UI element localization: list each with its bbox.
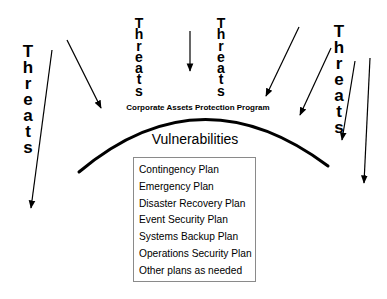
program-caption: Corporate Assets Protection Program — [108, 103, 288, 112]
threats-label-right: Threats — [331, 24, 347, 136]
threats-letter: s — [334, 120, 343, 136]
threats-letter: s — [217, 86, 225, 97]
plan-item: Disaster Recovery Plan — [139, 196, 255, 213]
plans-list: Contingency Plan Emergency Plan Disaster… — [139, 162, 255, 280]
plan-item: Contingency Plan — [139, 162, 255, 179]
vulnerabilities-title: Vulnerabilities — [130, 131, 260, 147]
threats-letter: s — [23, 140, 32, 156]
plans-box: Contingency Plan Emergency Plan Disaster… — [133, 157, 256, 282]
threats-diagram: Threats Threats Threats Threats Corporat… — [0, 0, 387, 299]
plan-item: Operations Security Plan — [139, 246, 255, 263]
threat-arrow-icon — [67, 40, 101, 108]
threat-arrow-icon — [266, 27, 299, 96]
threats-label-left: Threats — [20, 44, 36, 156]
plan-item: Emergency Plan — [139, 179, 255, 196]
threats-label-center-right: Threats — [214, 18, 228, 97]
plan-item: Other plans as needed — [139, 263, 255, 280]
plan-item: Event Security Plan — [139, 212, 255, 229]
threat-arrow-icon — [364, 58, 370, 183]
threats-label-center-left: Threats — [132, 18, 146, 97]
threat-arrow-icon — [300, 48, 331, 115]
threats-letter: s — [135, 86, 143, 97]
plan-item: Systems Backup Plan — [139, 229, 255, 246]
